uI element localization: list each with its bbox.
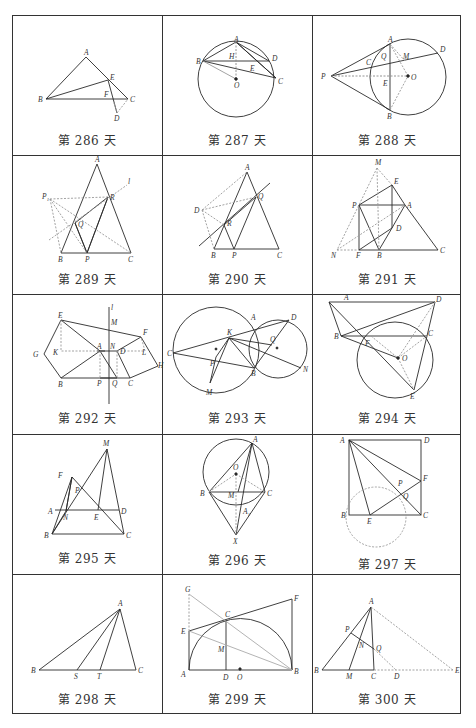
svg-text:D: D	[423, 436, 430, 445]
svg-text:R: R	[109, 193, 115, 202]
svg-text:M: M	[110, 318, 118, 327]
svg-text:D: D	[120, 507, 127, 516]
svg-text:l: l	[111, 303, 113, 312]
figure-287: AB CD EH O	[196, 35, 284, 117]
svg-text:B: B	[31, 666, 36, 675]
caption-day-287: 第 287 天	[162, 131, 312, 148]
svg-text:F: F	[364, 339, 370, 348]
caption-day-290: 第 290 天	[162, 270, 312, 287]
svg-text:M: M	[102, 439, 110, 448]
svg-text:B: B	[58, 255, 63, 264]
svg-text:B: B	[387, 112, 392, 121]
svg-text:D: D	[119, 347, 126, 356]
svg-text:Q: Q	[403, 492, 409, 501]
svg-text:E: E	[454, 666, 460, 675]
svg-text:Q: Q	[270, 335, 276, 344]
svg-text:C: C	[428, 329, 434, 338]
svg-text:P: P	[351, 201, 357, 210]
caption-day-292: 第 292 天	[12, 409, 162, 426]
svg-text:P: P	[397, 479, 403, 488]
svg-text:P: P	[231, 251, 237, 260]
svg-text:M: M	[205, 388, 213, 397]
svg-text:D: D	[290, 313, 297, 322]
svg-text:E: E	[393, 177, 399, 186]
svg-text:C: C	[128, 379, 134, 388]
svg-text:N: N	[302, 365, 309, 374]
svg-text:Q: Q	[258, 192, 264, 201]
svg-text:C: C	[126, 531, 132, 540]
caption-day-297: 第 297 天	[312, 555, 462, 572]
svg-text:C: C	[278, 77, 284, 86]
svg-text:G: G	[185, 585, 191, 594]
figure-293: AC DK QP MB N	[167, 307, 309, 397]
svg-text:L: L	[141, 348, 146, 357]
svg-text:Q: Q	[376, 644, 382, 653]
svg-text:P: P	[84, 255, 90, 264]
svg-text:C: C	[225, 610, 231, 619]
svg-text:E: E	[249, 64, 255, 73]
svg-text:B: B	[377, 251, 382, 260]
caption-day-300: 第 300 天	[312, 690, 462, 707]
svg-text:M: M	[402, 52, 410, 61]
svg-text:P: P	[320, 72, 326, 81]
svg-text:F: F	[57, 471, 63, 480]
caption-day-298: 第 298 天	[12, 690, 162, 707]
figure-294: AD BC FO E	[329, 293, 442, 401]
svg-text:P: P	[74, 486, 80, 495]
svg-text:O: O	[402, 354, 408, 363]
svg-text:M: M	[374, 158, 382, 167]
figure-292: EG KA ND LF HB PQ CM l	[33, 303, 164, 404]
figure-299: GF CE MA DO B	[180, 585, 299, 682]
figure-291: ME PA DN FB C	[330, 158, 446, 260]
svg-text:K: K	[52, 348, 59, 357]
caption-day-296: 第 296 天	[162, 551, 312, 568]
caption-day-291: 第 291 天	[312, 270, 462, 287]
svg-text:A: A	[47, 507, 53, 516]
svg-text:H: H	[157, 361, 164, 370]
svg-text:A: A	[180, 670, 186, 679]
figure-grid: AB CD EF AB CD EH O AB CD	[0, 0, 476, 728]
svg-text:F: F	[142, 328, 148, 337]
svg-text:C: C	[277, 251, 283, 260]
svg-text:B: B	[251, 369, 256, 378]
figure-296: AO BC MA₁ X	[200, 435, 273, 546]
svg-text:N: N	[109, 342, 116, 351]
svg-text:N: N	[358, 641, 365, 650]
svg-text:O: O	[237, 673, 243, 682]
caption-day-299: 第 299 天	[162, 690, 312, 707]
svg-text:E: E	[409, 392, 415, 401]
figure-295: MF PA NE DB C	[44, 439, 132, 540]
svg-text:A: A	[387, 35, 393, 44]
svg-text:A: A	[96, 342, 102, 351]
svg-text:C: C	[371, 672, 377, 681]
svg-text:B: B	[314, 666, 319, 675]
svg-text:D: D	[393, 672, 400, 681]
svg-text:D: D	[271, 54, 278, 63]
svg-text:R: R	[226, 219, 232, 228]
svg-text:D: D	[113, 114, 120, 123]
svg-text:F: F	[422, 474, 428, 483]
svg-text:K: K	[226, 328, 233, 337]
svg-text:C: C	[440, 246, 446, 255]
svg-text:E: E	[93, 513, 99, 522]
svg-text:C: C	[130, 95, 136, 104]
svg-text:E: E	[382, 79, 388, 88]
svg-text:N: N	[330, 251, 337, 260]
svg-text:C: C	[128, 255, 134, 264]
svg-text:M: M	[217, 645, 225, 654]
svg-text:Q: Q	[112, 379, 118, 388]
figure-286: AB CD EF	[38, 48, 136, 123]
caption-day-295: 第 295 天	[12, 549, 162, 566]
svg-text:E: E	[57, 311, 63, 320]
svg-text:P₁: P₁	[41, 192, 50, 201]
svg-text:A: A	[83, 48, 89, 57]
svg-text:B: B	[211, 251, 216, 260]
svg-text:B: B	[341, 511, 346, 520]
svg-text:E: E	[109, 73, 115, 82]
figure-289: AB CP QR P₁l	[41, 155, 134, 264]
svg-text:A₁: A₁	[242, 507, 251, 516]
svg-text:D: D	[193, 206, 200, 215]
svg-text:C: C	[267, 489, 273, 498]
caption-day-286: 第 286 天	[12, 131, 162, 148]
figure-297: AD FP QB EC	[339, 436, 430, 547]
